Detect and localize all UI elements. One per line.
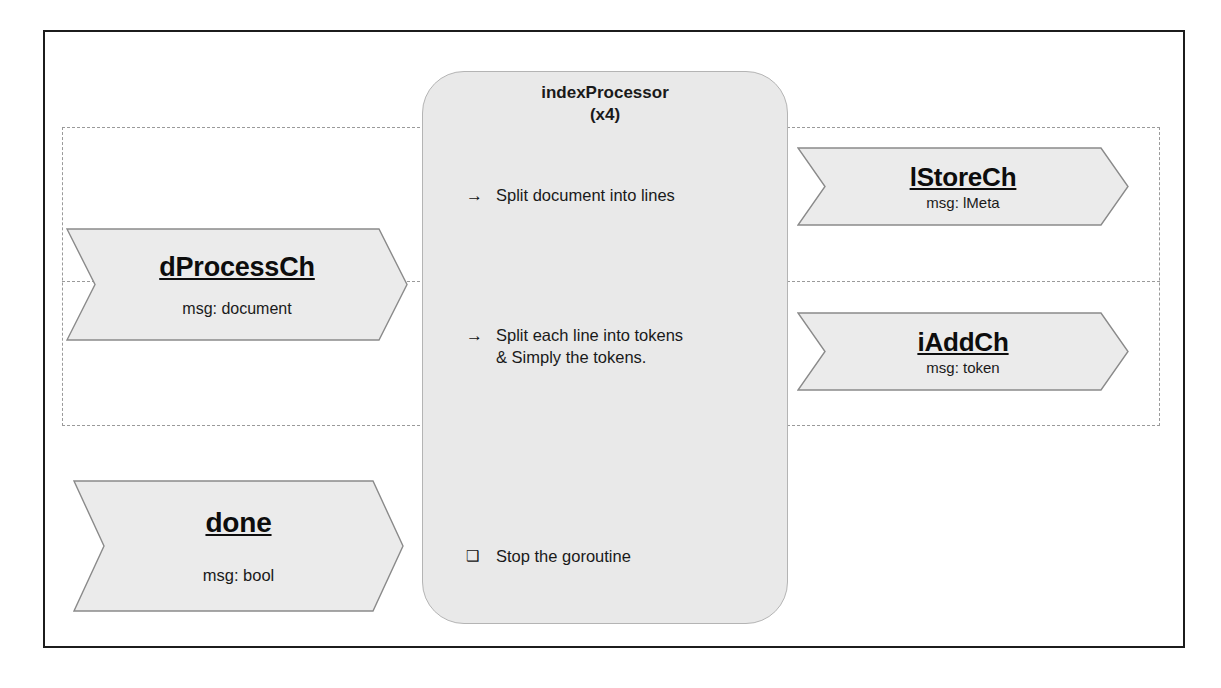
channel-shape-iaddch: iAddCh msg: token bbox=[797, 312, 1129, 391]
index-processor-title: indexProcessor (x4) bbox=[422, 82, 788, 127]
processor-task-row: ❑ Stop the goroutine bbox=[466, 546, 776, 568]
checkbox-square-icon: ❑ bbox=[466, 546, 496, 566]
processor-task-label: Split each line into tokens & Simply the… bbox=[496, 325, 683, 369]
chevron-arrow-shape bbox=[797, 147, 1129, 226]
arrow-right-icon: → bbox=[466, 185, 496, 208]
diagram-canvas: indexProcessor (x4) → Split document int… bbox=[0, 0, 1221, 688]
chevron-arrow-shape bbox=[797, 312, 1129, 391]
channel-shape-dprocessch: dProcessCh msg: document bbox=[66, 228, 408, 341]
processor-task-row: → Split each line into tokens & Simply t… bbox=[466, 325, 776, 369]
arrow-right-icon: → bbox=[466, 325, 496, 348]
processor-task-label: Stop the goroutine bbox=[496, 546, 631, 568]
processor-task-label: Split document into lines bbox=[496, 185, 675, 207]
channel-shape-done: done msg: bool bbox=[73, 480, 404, 612]
channel-shape-lstorech: lStoreCh msg: lMeta bbox=[797, 147, 1129, 226]
chevron-arrow-shape bbox=[66, 228, 408, 341]
processor-task-row: → Split document into lines bbox=[466, 185, 776, 208]
chevron-arrow-shape bbox=[73, 480, 404, 612]
